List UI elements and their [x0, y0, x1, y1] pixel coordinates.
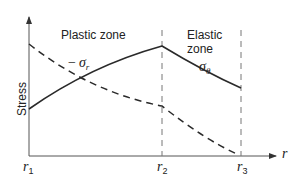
neg-sigma-r-sub: r [86, 62, 90, 72]
elastic-zone-label-line1: Elastic [187, 29, 222, 41]
elastic-zone-label-line2: zone [187, 43, 213, 55]
sigma-theta-sub: θ [206, 66, 210, 76]
tick-r3-sub: 3 [242, 166, 247, 176]
plastic-zone-label: Plastic zone [61, 29, 126, 41]
sigma-theta-label: σθ [199, 60, 210, 76]
neg-sigma-r-base: σ [79, 55, 86, 70]
x-axis-label: r [282, 147, 287, 161]
tick-r2: r2 [157, 160, 167, 176]
neg-sigma-r-label: −σr [68, 56, 89, 72]
tick-r1-sub: 1 [28, 166, 33, 176]
stress-diagram [0, 0, 299, 178]
sigma-theta-base: σ [199, 59, 206, 74]
tick-r1: r1 [23, 160, 33, 176]
tick-r3: r3 [237, 160, 247, 176]
tick-r2-sub: 2 [162, 166, 167, 176]
neg-sigma-r-prefix: − [68, 55, 76, 70]
y-axis-label: Stress [15, 79, 29, 119]
x-axis-label-text: r [282, 146, 287, 161]
